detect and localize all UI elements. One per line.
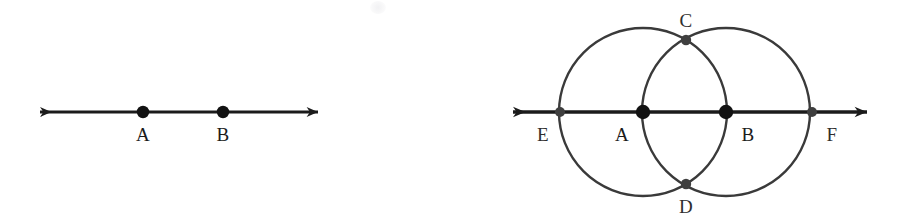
point-e-label: E	[537, 125, 549, 144]
point-b-label: B	[742, 125, 755, 144]
point-c-dot	[681, 35, 691, 45]
point-a-label: A	[615, 125, 629, 144]
point-b-dot	[719, 105, 733, 119]
point-d-label: D	[679, 197, 693, 216]
point-d-dot	[681, 179, 691, 189]
point-a-dot	[636, 105, 650, 119]
point-f-label: F	[827, 125, 838, 144]
point-e-dot	[555, 107, 565, 117]
point-c-label: C	[680, 11, 693, 30]
diagram-canvas: A B E A B F C	[0, 0, 908, 220]
figure-right: E A B F C D	[0, 0, 908, 220]
figure-right-graphics	[0, 0, 908, 220]
point-f-dot	[807, 107, 817, 117]
